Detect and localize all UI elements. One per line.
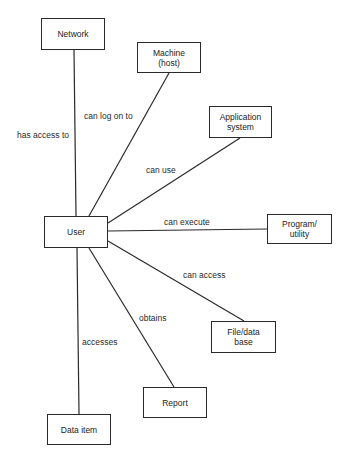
node-network: Network (41, 18, 105, 50)
edge-label-can-use: can use (146, 165, 176, 175)
edge-accesses (77, 248, 79, 414)
edge-can-access (108, 241, 244, 321)
node-machine-host: Machine (host) (137, 42, 201, 73)
node-data-item: Data item (47, 414, 111, 445)
edge-has-access-to (74, 50, 76, 216)
edge-label-has-access-to: has access to (17, 130, 69, 140)
edge-label-can-access: can access (183, 270, 226, 280)
edge-can-log-on-to (89, 73, 169, 216)
node-program-utility: Program/ utility (267, 214, 332, 244)
node-file-database: File/data base (211, 321, 276, 353)
edge-label-accesses: accesses (82, 337, 117, 347)
node-application-system: Application system (209, 106, 272, 138)
edge-label-can-log-on-to: can log on to (84, 111, 133, 121)
node-user: User (44, 216, 108, 248)
node-report: Report (143, 387, 207, 418)
edge-label-can-execute: can execute (164, 217, 210, 227)
edge-can-execute (108, 229, 267, 231)
edge-can-use (108, 138, 240, 223)
edge-label-obtains: obtains (139, 313, 166, 323)
